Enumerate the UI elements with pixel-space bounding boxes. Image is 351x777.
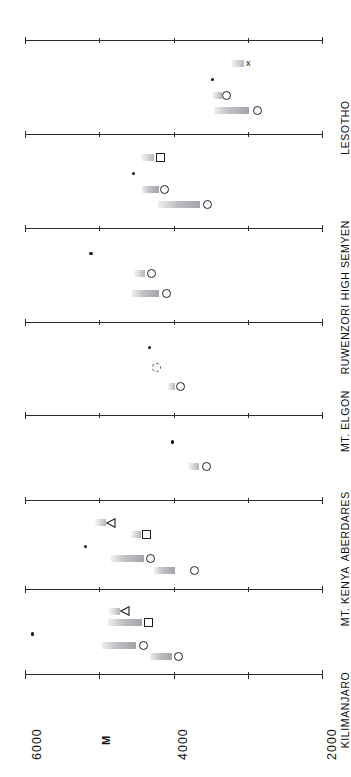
data-row — [0, 247, 341, 260]
marker-circle-icon — [190, 566, 199, 575]
axis-cap-left — [25, 131, 26, 138]
axis-tick-3000 — [248, 132, 249, 137]
axis-tick-4000 — [174, 38, 175, 43]
range-bar — [150, 653, 172, 660]
range-bar — [102, 642, 136, 649]
data-row — [0, 435, 341, 448]
axis-cap-right — [322, 319, 323, 326]
panel-aberdares: ABERDARES — [0, 415, 341, 500]
axis-tick-5000 — [99, 413, 100, 418]
data-row — [0, 104, 341, 117]
axis-tick-4000 — [174, 226, 175, 231]
axis-tick-4000 — [174, 320, 175, 325]
marker-circle-icon — [162, 289, 171, 298]
range-bar — [231, 60, 244, 67]
range-bar — [111, 555, 144, 562]
axis-cap-right — [322, 412, 323, 419]
data-row — [0, 167, 341, 180]
marker-dot-icon — [89, 252, 92, 255]
range-bar — [158, 201, 200, 208]
axis-tick-5000 — [99, 498, 100, 503]
data-row — [0, 650, 341, 663]
range-bar — [132, 290, 159, 297]
axis-cap-left — [25, 670, 26, 679]
axis-tick-3000 — [248, 498, 249, 503]
axis-tick-5000 — [99, 320, 100, 325]
axis-tick-3000 — [248, 226, 249, 231]
range-bar — [212, 92, 222, 99]
marker-circle-dashed-icon — [152, 363, 161, 372]
axis-cap-left — [25, 497, 26, 504]
axis-tick-4000 — [174, 498, 175, 503]
axis-tick-3000 — [248, 672, 249, 679]
data-row — [0, 460, 341, 473]
marker-circle-icon — [176, 382, 185, 391]
marker-circle-icon — [222, 91, 231, 100]
axis-tick-5000 — [99, 672, 100, 679]
marker-circle-icon — [202, 462, 211, 471]
axis-cap-left — [25, 319, 26, 326]
axis-cap-left — [25, 412, 26, 419]
marker-circle-icon — [160, 185, 169, 194]
axis-cap-right — [322, 37, 323, 44]
range-bar — [109, 608, 120, 615]
marker-circle-icon — [253, 106, 262, 115]
data-row — [0, 564, 341, 577]
data-row — [0, 361, 341, 374]
data-row — [0, 380, 341, 393]
data-row — [0, 267, 341, 280]
panel-high-semyen: HIGH SEMYEN — [0, 134, 341, 228]
axis-cap-left — [25, 37, 26, 44]
marker-dot-icon — [148, 346, 151, 349]
axis-cap-right — [322, 131, 323, 138]
marker-cross-icon: x — [246, 59, 251, 68]
marker-circle-icon — [147, 269, 156, 278]
panel-mt-kenya: MT. KENYA — [0, 500, 341, 589]
marker-square-icon — [144, 618, 153, 627]
marker-circle-icon — [174, 652, 183, 661]
axis-label-4000: 4000 — [176, 728, 190, 760]
range-bar — [108, 619, 141, 626]
range-bar — [214, 107, 250, 114]
axis-tick-4000 — [174, 587, 175, 592]
range-bar — [141, 154, 154, 161]
range-bar — [134, 270, 145, 277]
range-bar — [154, 567, 175, 574]
axis-tick-5000 — [99, 38, 100, 43]
data-row — [0, 198, 341, 211]
data-row — [0, 89, 341, 102]
axis-cap-right — [322, 497, 323, 504]
marker-square-icon — [156, 153, 165, 162]
axis-tick-3000 — [248, 413, 249, 418]
marker-square-icon — [142, 530, 151, 539]
data-row — [0, 183, 341, 196]
range-bar — [95, 519, 106, 526]
axis-tick-5000 — [99, 132, 100, 137]
axis-tick-4000 — [174, 413, 175, 418]
data-row — [0, 341, 341, 354]
panel-kilimanjaro: KILIMANJARO — [0, 589, 341, 674]
data-row — [0, 287, 341, 300]
panel-lesotho: LESOTHOx — [0, 40, 341, 134]
axis-cap-left — [25, 225, 26, 232]
axis-cap-left — [25, 586, 26, 593]
data-row — [0, 151, 341, 164]
marker-dot-icon — [211, 78, 214, 81]
range-bar — [188, 463, 199, 470]
axis-tick-3000 — [248, 38, 249, 43]
range-bar — [131, 531, 141, 538]
axis-cap-right — [322, 225, 323, 232]
data-row: x — [0, 57, 341, 70]
axis-cap-right — [322, 586, 323, 593]
axis-unit-label: M — [100, 736, 112, 745]
marker-dot-icon — [31, 632, 34, 635]
panel-label: KILIMANJARO — [339, 672, 351, 749]
bottom-value-axis — [0, 674, 341, 675]
axis-tick-4000 — [174, 672, 175, 679]
data-row — [0, 73, 341, 86]
range-bar — [142, 186, 159, 193]
axis-label-2000: 2000 — [325, 728, 339, 760]
axis-label-6000: 6000 — [30, 728, 44, 760]
marker-dot-icon — [132, 172, 135, 175]
axis-tick-3000 — [248, 320, 249, 325]
